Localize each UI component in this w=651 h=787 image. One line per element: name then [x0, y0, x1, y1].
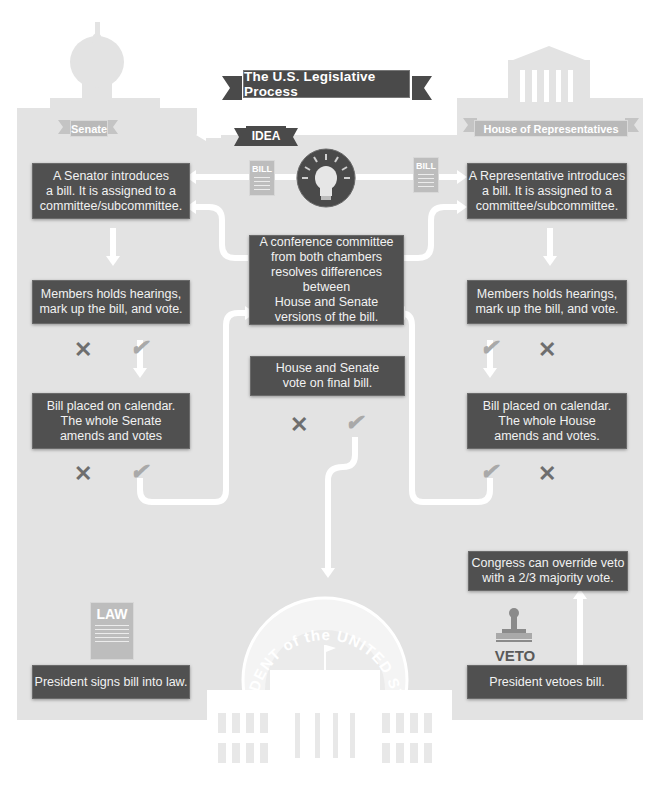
house-label: House of Representatives — [474, 120, 628, 137]
house-hearings-reject-icon: ✕ — [538, 339, 556, 361]
house-introduce-step: A Representative introduces a bill. It i… — [467, 163, 627, 219]
senate-label: Senate — [70, 120, 108, 137]
senate-calendar-reject-icon: ✕ — [74, 463, 92, 485]
house-calendar-reject-icon: ✕ — [538, 463, 556, 485]
lightbulb-icon — [296, 148, 356, 208]
law-document-icon: LAW — [90, 602, 134, 660]
bill-document-icon-right: BILL — [413, 157, 439, 193]
final-vote-reject-icon: ✕ — [290, 414, 308, 436]
presidential-seal: PRESIDENT of the UNITED STATES — [243, 598, 407, 708]
senate-introduce-step: A Senator introduces a bill. It is assig… — [32, 163, 190, 219]
svg-text:PRESIDENT of the UNITED STATES: PRESIDENT of the UNITED STATES — [243, 598, 407, 708]
senate-calendar-approve-icon: ✔ — [130, 461, 148, 483]
president-vetoes-step: President vetoes bill. — [467, 665, 627, 699]
house-calendar-approve-icon: ✔ — [480, 461, 498, 483]
page-title: The U.S. Legislative Process — [243, 70, 410, 98]
house-hearings-step: Members holds hearings, mark up the bill… — [467, 280, 627, 324]
bill-document-icon-left: BILL — [249, 160, 275, 196]
senate-calendar-step: Bill placed on calendar. The whole Senat… — [32, 393, 190, 449]
senate-hearings-approve-icon: ✔ — [130, 337, 148, 359]
house-hearings-approve-icon: ✔ — [480, 337, 498, 359]
veto-override-step: Congress can override veto with a 2/3 ma… — [468, 551, 628, 591]
final-vote-approve-icon: ✔ — [345, 412, 363, 434]
house-calendar-step: Bill placed on calendar. The whole House… — [467, 393, 627, 449]
veto-label: VETO — [494, 647, 536, 664]
idea-label: IDEA — [246, 126, 286, 146]
president-signs-step: President signs bill into law. — [32, 665, 190, 699]
veto-stamp-icon — [494, 607, 534, 647]
senate-hearings-reject-icon: ✕ — [74, 339, 92, 361]
conference-committee-step: A conference committee from both chamber… — [249, 235, 404, 325]
senate-hearings-step: Members holds hearings, mark up the bill… — [32, 280, 190, 324]
final-vote-step: House and Senate vote on final bill. — [250, 356, 405, 396]
